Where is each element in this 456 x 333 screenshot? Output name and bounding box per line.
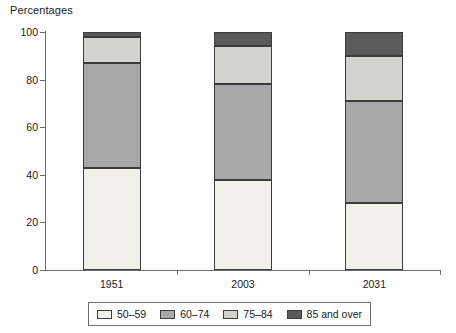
y-tick-label: 20 [26,216,38,228]
bar-segment [345,32,403,56]
bar-2031 [345,32,403,270]
legend-item[interactable]: 85 and over [287,308,362,320]
plot-area [46,32,440,270]
bar-segment [345,56,403,101]
bar-segment [214,180,272,270]
bar-segment [214,84,272,179]
x-axis-line [45,270,441,271]
legend-label: 85 and over [307,308,362,320]
y-tick-label: 0 [32,264,38,276]
y-tick-mark [40,80,45,81]
y-tick-mark [40,222,45,223]
stacked-bar-chart: Percentages 020406080100 195120032031 50… [0,0,456,333]
legend-swatch-icon [160,310,175,319]
bar-segment [345,203,403,270]
legend-label: 50–59 [117,308,146,320]
y-tick-label: 80 [26,74,38,86]
y-tick-mark [40,175,45,176]
bar-2003 [214,32,272,270]
legend-label: 60–74 [180,308,209,320]
bar-segment [214,46,272,84]
y-tick-label: 40 [26,169,38,181]
bar-segment [345,101,403,203]
chart-title: Percentages [10,4,73,16]
x-tick-mark [177,270,178,275]
y-tick-mark [40,32,45,33]
bar-segment [83,63,141,168]
legend-swatch-icon [97,310,112,319]
x-tick-label: 1951 [100,278,123,290]
y-tick-label: 100 [20,26,38,38]
legend-swatch-icon [287,310,302,319]
legend-swatch-icon [223,310,238,319]
bar-segment [83,37,141,63]
chart-legend: 50–5960–7475–8485 and over [88,302,371,326]
legend-item[interactable]: 50–59 [97,308,146,320]
x-tick-label: 2031 [363,278,386,290]
bar-1951 [83,32,141,270]
y-tick-mark [40,127,45,128]
legend-item[interactable]: 75–84 [223,308,272,320]
bar-segment [214,32,272,46]
x-tick-mark [440,270,441,275]
bar-segment [83,168,141,270]
x-tick-mark [309,270,310,275]
legend-label: 75–84 [243,308,272,320]
bar-segment [83,32,141,37]
x-tick-label: 2003 [231,278,254,290]
y-tick-mark [40,270,45,271]
legend-item[interactable]: 60–74 [160,308,209,320]
y-tick-label: 60 [26,121,38,133]
